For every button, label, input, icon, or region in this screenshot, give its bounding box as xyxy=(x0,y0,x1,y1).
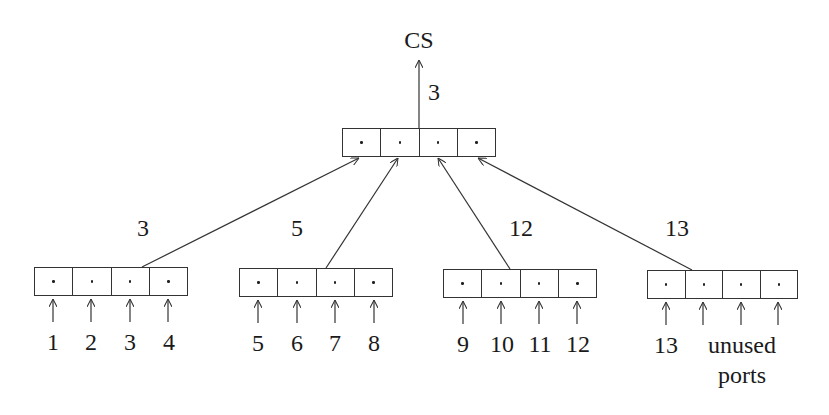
port xyxy=(240,269,278,296)
port xyxy=(355,269,392,296)
input-label: 9 xyxy=(457,332,469,356)
input-label: 12 xyxy=(566,332,590,356)
edge-1 xyxy=(142,158,359,267)
port xyxy=(723,271,761,298)
edge-2 xyxy=(326,158,398,268)
port xyxy=(150,268,187,295)
unused-ports-label-line2: ports xyxy=(718,363,766,387)
input-label: 3 xyxy=(124,330,136,354)
port xyxy=(686,271,724,298)
port xyxy=(761,271,798,298)
port xyxy=(35,268,73,295)
edge-label-2: 5 xyxy=(291,216,303,240)
port xyxy=(482,270,520,297)
top-node-port xyxy=(458,129,495,156)
input-label: 8 xyxy=(368,331,380,355)
leaf-node-2 xyxy=(239,268,393,297)
input-label: 2 xyxy=(85,330,97,354)
top-node-port xyxy=(420,129,458,156)
input-label: 7 xyxy=(329,331,341,355)
input-label: 10 xyxy=(490,332,514,356)
edge-4 xyxy=(478,158,692,270)
port xyxy=(444,270,482,297)
unused-ports-label-line1: unused xyxy=(708,333,776,357)
root-label: CS xyxy=(404,28,433,52)
input-label: 11 xyxy=(528,332,551,356)
port xyxy=(317,269,355,296)
edge-3 xyxy=(438,158,510,269)
port xyxy=(521,270,559,297)
input-label: 5 xyxy=(252,331,264,355)
port xyxy=(278,269,316,296)
leaf-node-4 xyxy=(647,270,798,299)
top-node-port xyxy=(381,129,419,156)
root-edge-label: 3 xyxy=(428,80,440,104)
input-label: 4 xyxy=(163,330,175,354)
input-label: 1 xyxy=(47,330,59,354)
port xyxy=(559,270,596,297)
port xyxy=(648,271,686,298)
edge-label-4: 13 xyxy=(665,216,689,240)
top-node xyxy=(342,128,496,157)
leaf-node-1 xyxy=(34,267,188,296)
input-label: 6 xyxy=(291,331,303,355)
input-label: 13 xyxy=(654,333,678,357)
edge-label-1: 3 xyxy=(137,216,149,240)
port xyxy=(73,268,111,295)
port xyxy=(112,268,150,295)
top-node-port xyxy=(343,129,381,156)
leaf-node-3 xyxy=(443,269,597,298)
edge-label-3: 12 xyxy=(509,216,533,240)
